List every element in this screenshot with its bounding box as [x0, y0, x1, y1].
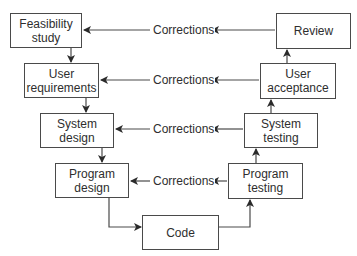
box-label: Programtesting	[242, 167, 288, 195]
corrections-label-2: Corrections	[152, 73, 215, 87]
box-code: Code	[142, 215, 219, 250]
box-program-testing: Programtesting	[228, 163, 303, 199]
box-label: Review	[294, 24, 333, 38]
box-review: Review	[276, 13, 351, 49]
box-label: Code	[166, 226, 195, 240]
box-label: Feasibilitystudy	[19, 17, 72, 45]
arrow-program-design-to-code	[109, 198, 141, 227]
arrow-code-to-program-testing	[219, 200, 250, 227]
corrections-label-1: Corrections	[152, 23, 215, 37]
corrections-label-3: Corrections	[152, 122, 215, 136]
box-label: Systemtesting	[261, 117, 301, 145]
box-system-design: Systemdesign	[40, 113, 114, 148]
box-user-acceptance: Useracceptance	[260, 63, 336, 99]
box-label: Userrequirements	[26, 67, 96, 95]
corrections-label-4: Corrections	[152, 174, 215, 188]
box-program-design: Programdesign	[55, 163, 129, 198]
box-user-requirements: Userrequirements	[24, 63, 99, 98]
box-system-testing: Systemtesting	[244, 113, 318, 148]
box-feasibility-study: Feasibilitystudy	[10, 13, 82, 48]
box-label: Systemdesign	[57, 117, 97, 145]
box-label: Useracceptance	[267, 67, 328, 95]
box-label: Programdesign	[69, 167, 115, 195]
